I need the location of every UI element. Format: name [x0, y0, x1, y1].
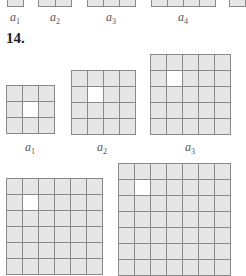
figure-a4 [6, 178, 103, 275]
missing-tile [167, 71, 182, 86]
tile [120, 71, 135, 86]
tile [215, 212, 230, 227]
tile [7, 259, 22, 274]
tile [119, 164, 134, 179]
tile [183, 212, 198, 227]
tile [151, 87, 166, 102]
tile [119, 196, 134, 211]
tile [215, 180, 230, 195]
tile [215, 71, 230, 86]
tile [7, 179, 22, 194]
tile [199, 164, 214, 179]
tile [135, 164, 150, 179]
tile [7, 118, 22, 133]
tile [167, 212, 182, 227]
tile [39, 211, 54, 226]
tile [23, 259, 38, 274]
prev-figure-a2 [38, 0, 72, 7]
tile [151, 228, 166, 243]
tile [215, 164, 230, 179]
tile [88, 103, 103, 118]
tile [39, 118, 54, 133]
tile [215, 119, 230, 134]
tile [167, 196, 182, 211]
tile [215, 244, 230, 259]
figure-a1 [6, 85, 55, 134]
missing-tile [23, 102, 38, 117]
tile [39, 195, 54, 210]
tile [39, 243, 54, 258]
tile [199, 87, 214, 102]
tile [215, 103, 230, 118]
tile [7, 195, 22, 210]
tile [135, 212, 150, 227]
tile [39, 86, 54, 101]
tile [167, 164, 182, 179]
tile [199, 71, 214, 86]
tile [151, 71, 166, 86]
tile [7, 243, 22, 258]
tile [119, 228, 134, 243]
tile [87, 179, 102, 194]
tile [7, 227, 22, 242]
prev-figure-a1 [7, 0, 24, 7]
problem-number: 14. [6, 30, 25, 47]
tile [183, 87, 198, 102]
tile [104, 119, 119, 134]
tile [183, 164, 198, 179]
figure-a5 [118, 163, 231, 276]
tile [183, 196, 198, 211]
tile [215, 87, 230, 102]
tile [167, 244, 182, 259]
tile [151, 180, 166, 195]
tile [167, 55, 182, 70]
tile [167, 103, 182, 118]
tile [135, 228, 150, 243]
tile [119, 260, 134, 275]
tile [71, 259, 86, 274]
tile [120, 119, 135, 134]
tile [151, 103, 166, 118]
tile [199, 180, 214, 195]
prev-figure-a4 [151, 0, 216, 7]
tile [72, 119, 87, 134]
tile [199, 55, 214, 70]
tile [87, 243, 102, 258]
tile [71, 195, 86, 210]
tile [199, 260, 214, 275]
tile [183, 103, 198, 118]
figure-a3 [150, 54, 231, 135]
tile [23, 227, 38, 242]
tile [104, 87, 119, 102]
tile [55, 259, 70, 274]
tile [23, 118, 38, 133]
label-a2: a2 [97, 140, 107, 156]
tile [104, 71, 119, 86]
tile [71, 227, 86, 242]
tile [151, 212, 166, 227]
prev-label-a1: a1 [10, 10, 20, 26]
tile [87, 227, 102, 242]
tile [39, 179, 54, 194]
tile [55, 211, 70, 226]
tile [183, 119, 198, 134]
tile [55, 243, 70, 258]
tile [135, 196, 150, 211]
label-a3: a3 [185, 140, 195, 156]
tile [23, 86, 38, 101]
tile [167, 260, 182, 275]
tile [71, 179, 86, 194]
prev-figure-a3 [87, 0, 136, 7]
tile [199, 103, 214, 118]
missing-tile [135, 180, 150, 195]
tile [7, 86, 22, 101]
tile [199, 228, 214, 243]
tile [55, 227, 70, 242]
tile [7, 102, 22, 117]
tile [183, 244, 198, 259]
prev-label-a2: a2 [50, 10, 60, 26]
tile [151, 196, 166, 211]
tile [23, 179, 38, 194]
tile [183, 180, 198, 195]
tile [23, 243, 38, 258]
